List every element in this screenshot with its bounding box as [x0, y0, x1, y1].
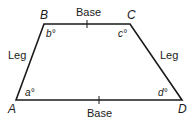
vertex-a-label: A: [7, 102, 16, 116]
vertex-d-label: D: [178, 102, 187, 116]
angle-d-label: d°: [158, 87, 168, 98]
angle-a-label: a°: [25, 87, 35, 98]
left-leg-label: Leg: [8, 49, 26, 61]
trapezoid-diagram: B C A D b° c° a° d° Base Base Leg Leg: [0, 0, 195, 122]
vertex-c-label: C: [127, 8, 136, 22]
vertex-b-label: B: [40, 8, 48, 22]
top-base-label: Base: [76, 6, 101, 18]
bottom-base-label: Base: [87, 107, 112, 119]
angle-b-label: b°: [46, 28, 56, 39]
angle-c-label: c°: [118, 28, 127, 39]
right-leg-label: Leg: [160, 49, 178, 61]
